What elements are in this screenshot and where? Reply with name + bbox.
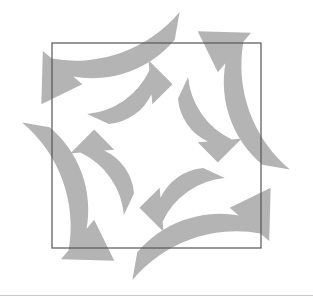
circular-arrows-diagram bbox=[0, 0, 313, 300]
outer-ring bbox=[22, 12, 290, 280]
bottom-separator-rule bbox=[0, 295, 313, 296]
diagram-canvas: Circular process diagram: eight curved a… bbox=[0, 0, 313, 300]
inner-ring bbox=[70, 60, 242, 232]
